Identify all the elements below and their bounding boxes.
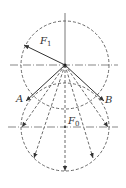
resultant-vector-lower-right bbox=[65, 65, 93, 158]
f0-label: F0 bbox=[67, 115, 79, 128]
a-label: A bbox=[15, 93, 23, 104]
b-label: B bbox=[104, 94, 112, 105]
origin-point bbox=[63, 63, 66, 66]
f1-vector bbox=[24, 45, 65, 65]
f1-label: F1 bbox=[39, 35, 51, 48]
lower-center-point bbox=[64, 126, 66, 128]
resultant-vector-left bbox=[22, 65, 65, 127]
force-circle-diagram: F1 F0 A B bbox=[0, 0, 126, 188]
